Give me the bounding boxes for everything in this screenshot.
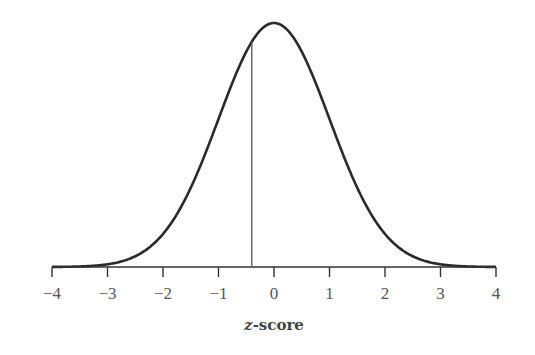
normal-curve xyxy=(52,23,496,267)
x-tick-label: 1 xyxy=(325,284,334,303)
x-tick-label: 0 xyxy=(270,284,279,303)
normal-distribution-chart: −4−3−2−101234 z-score xyxy=(0,0,535,355)
x-tick-label: −4 xyxy=(43,284,62,303)
x-axis-label: z-score xyxy=(243,316,304,334)
x-axis-label-variable: z xyxy=(243,316,253,334)
x-tick-label: 4 xyxy=(492,284,501,303)
x-axis-ticks: −4−3−2−101234 xyxy=(43,267,501,303)
x-tick-label: 3 xyxy=(436,284,445,303)
x-tick-label: −2 xyxy=(154,284,172,303)
x-tick-label: −1 xyxy=(209,284,227,303)
x-tick-label: −3 xyxy=(98,284,116,303)
x-tick-label: 2 xyxy=(381,284,390,303)
x-axis-label-suffix: -score xyxy=(253,316,304,334)
